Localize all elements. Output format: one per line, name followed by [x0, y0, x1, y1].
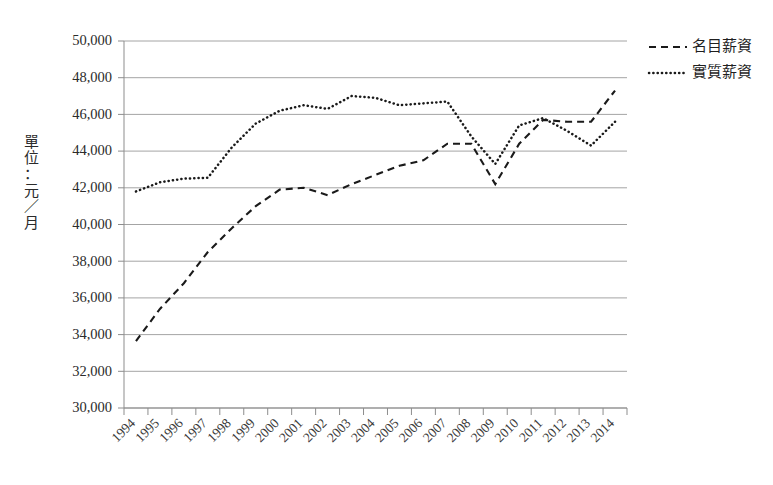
- y-axis-tick-labels: 30,00032,00034,00036,00038,00040,00042,0…: [72, 32, 112, 415]
- legend-label-real-wage: 實質薪資: [692, 63, 752, 80]
- legend-label-nominal-wage: 名目薪資: [692, 38, 752, 54]
- x-axis-tick-labels: 1994199519961997199819992000200120022003…: [108, 415, 617, 445]
- y-tick-label: 50,000: [72, 32, 112, 48]
- x-tick-label: 2007: [420, 415, 450, 445]
- series-line-real-wage: [136, 96, 615, 191]
- x-tick-label: 2004: [348, 415, 378, 445]
- x-tick-label: 2011: [516, 416, 545, 445]
- x-tick-label: 2002: [300, 416, 330, 446]
- x-tick-label: 2006: [396, 415, 426, 445]
- y-tick-label: 40,000: [72, 216, 112, 232]
- x-tick-label: 1994: [108, 415, 138, 445]
- x-tick-label: 2013: [563, 415, 593, 445]
- y-tick-label: 36,000: [72, 289, 112, 305]
- line-chart-plot: 30,00032,00034,00036,00038,00040,00042,0…: [0, 0, 773, 485]
- data-series-group: [136, 91, 615, 341]
- y-tick-label: 34,000: [72, 326, 112, 342]
- y-tick-label: 48,000: [72, 69, 112, 85]
- y-axis-ticks: [118, 41, 124, 408]
- x-tick-label: 2001: [276, 416, 306, 446]
- y-tick-label: 44,000: [72, 142, 112, 158]
- x-tick-label: 2003: [324, 415, 354, 445]
- x-tick-label: 2009: [468, 415, 498, 445]
- x-tick-label: 2000: [252, 415, 282, 445]
- x-tick-label: 2014: [587, 415, 617, 445]
- x-axis-ticks: [124, 408, 627, 415]
- x-tick-label: 1996: [156, 415, 186, 445]
- x-tick-label: 1997: [180, 415, 210, 445]
- x-tick-label: 2008: [444, 415, 474, 445]
- chart-legend: 名目薪資實質薪資: [649, 38, 752, 80]
- x-tick-label: 1999: [228, 415, 258, 445]
- y-tick-label: 32,000: [72, 363, 112, 379]
- chart-container: 單 位 ： 元 ／ 月 30,00032,00034,00036,00038,0…: [0, 0, 773, 485]
- series-line-nominal-wage: [136, 91, 615, 341]
- y-tick-label: 38,000: [72, 253, 112, 269]
- x-tick-label: 2010: [492, 415, 522, 445]
- x-tick-label: 2012: [540, 416, 570, 446]
- y-tick-label: 42,000: [72, 179, 112, 195]
- x-tick-label: 2005: [372, 415, 402, 445]
- gridlines: [124, 41, 627, 408]
- y-tick-label: 46,000: [72, 106, 112, 122]
- x-tick-label: 1995: [132, 415, 162, 445]
- y-tick-label: 30,000: [72, 399, 112, 415]
- x-tick-label: 1998: [204, 415, 234, 445]
